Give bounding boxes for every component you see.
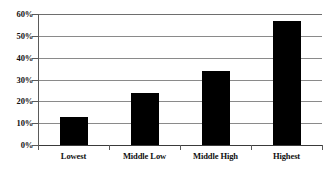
y-tick-mark-40	[32, 58, 38, 59]
x-tick-label: Middle Low	[109, 152, 180, 161]
x-tick-label: Middle High	[180, 152, 251, 161]
y-tick-label: 10%	[17, 119, 33, 128]
y-tick-label: 60%	[17, 10, 33, 19]
x-tick-label: Lowest	[38, 152, 109, 161]
x-axis: LowestMiddle LowMiddle HighHighest	[38, 152, 322, 168]
y-tick-label: 40%	[17, 54, 33, 63]
y-tick-mark-60	[32, 14, 38, 15]
y-tick-mark-10	[32, 123, 38, 124]
y-tick-mark-20	[32, 101, 38, 102]
y-tick-mark-30	[32, 80, 38, 81]
y-tick-label: 30%	[17, 76, 33, 85]
x-tick-mark	[251, 145, 252, 150]
bar	[60, 117, 88, 145]
y-tick-label: 20%	[17, 97, 33, 106]
x-tick-mark	[109, 145, 110, 150]
y-axis: 0%10%20%30%40%50%60%	[0, 0, 36, 170]
bar	[202, 71, 230, 145]
y-tick-mark-50	[32, 36, 38, 37]
x-tick-mark	[322, 145, 323, 150]
bar	[273, 21, 301, 145]
x-tick-label: Highest	[251, 152, 322, 161]
x-tick-mark	[38, 145, 39, 150]
bars-layer	[38, 14, 322, 145]
bar-chart: 0%10%20%30%40%50%60% LowestMiddle LowMid…	[0, 0, 335, 170]
bar	[131, 93, 159, 145]
y-tick-label: 50%	[17, 32, 33, 41]
x-tick-mark	[180, 145, 181, 150]
